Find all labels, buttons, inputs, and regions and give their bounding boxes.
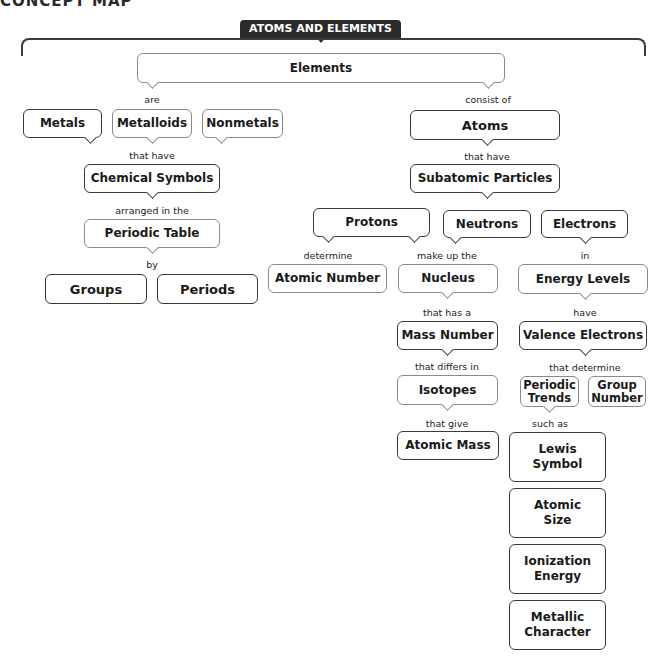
node-label: Groups <box>70 282 122 297</box>
link-consist-of: consist of <box>465 94 511 105</box>
node-label: Ionization Energy <box>518 554 597 584</box>
node-label: Metallic Character <box>520 610 595 640</box>
link-that-have: that have <box>129 150 175 161</box>
node-metallic-character: Metallic Character <box>509 600 606 650</box>
node-label: Periodic Table <box>105 226 200 241</box>
node-label: Valence Electrons <box>523 328 643 343</box>
node-label: Isotopes <box>419 383 477 398</box>
node-atomic-mass: Atomic Mass <box>397 431 499 460</box>
link-in: in <box>581 250 590 261</box>
link-make-up-the: make up the <box>417 250 477 261</box>
atoms-and-elements-banner: ATOMS AND ELEMENTS <box>240 20 401 38</box>
link-that-give: that give <box>426 418 468 429</box>
node-label: Atomic Number <box>275 271 380 286</box>
node-label: Group Number <box>589 379 645 405</box>
node-label: Periods <box>180 282 235 297</box>
node-label: Metalloids <box>117 116 187 131</box>
link-arranged-in-the: arranged in the <box>115 205 189 216</box>
node-label: Atomic Size <box>528 498 587 528</box>
node-groups: Groups <box>45 274 147 304</box>
link-are: are <box>144 94 159 105</box>
node-group-number: Group Number <box>588 376 646 407</box>
node-label: Atoms <box>462 118 509 133</box>
node-atomic-size: Atomic Size <box>509 488 606 538</box>
node-label: Lewis Symbol <box>528 442 587 472</box>
node-label: Energy Levels <box>536 272 630 287</box>
node-label: Atomic Mass <box>405 438 491 453</box>
link-such-as: such as <box>532 418 568 429</box>
node-label: Neutrons <box>456 217 518 232</box>
link-have: have <box>573 307 596 318</box>
node-label: Elements <box>290 61 353 76</box>
node-label: Metals <box>40 116 85 131</box>
node-periods: Periods <box>157 274 258 304</box>
node-label: Subatomic Particles <box>418 171 553 186</box>
node-nonmetals: Nonmetals <box>202 109 283 138</box>
node-ionization-energy: Ionization Energy <box>509 544 606 594</box>
node-label: Protons <box>345 215 398 230</box>
link-that-have: that have <box>464 151 510 162</box>
link-that-determine: that determine <box>549 362 620 373</box>
link-by: by <box>146 259 158 270</box>
link-that-has-a: that has a <box>423 307 471 318</box>
link-that-differs-in: that differs in <box>415 361 479 372</box>
node-label: Nucleus <box>421 271 475 286</box>
node-atomic-number: Atomic Number <box>268 264 387 293</box>
node-elements: Elements <box>137 53 505 83</box>
concept-map-title: CONCEPT MAP <box>0 0 133 10</box>
node-label: Mass Number <box>401 328 493 343</box>
node-label: Chemical Symbols <box>91 171 214 186</box>
link-determine: determine <box>304 250 353 261</box>
node-label: Nonmetals <box>206 116 279 131</box>
node-lewis-symbol: Lewis Symbol <box>509 432 606 482</box>
node-label: Electrons <box>553 217 616 232</box>
